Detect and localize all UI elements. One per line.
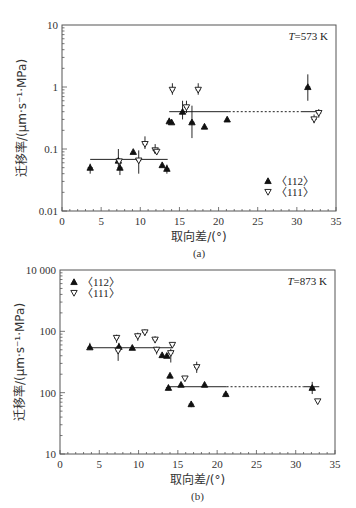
y-axis-title: 迁移率/(μm·s⁻¹·MPa) [12,303,27,421]
x-tick-label: 35 [331,215,343,227]
chart-panel-a: 051015202530350.010.1110取向差/(°)迁移率/(μm·s… [14,19,342,260]
filled-up-triangle-marker [159,162,165,168]
y-tick-label: 1 [53,81,59,93]
filled-up-triangle-marker [130,149,136,155]
open-down-triangle-icon [265,189,271,195]
y-tick-label: 100 [40,325,57,337]
x-axis-title: 取向差/(°) [171,229,226,244]
x-tick-label: 0 [59,215,65,227]
filled-up-triangle-icon [265,178,271,184]
open-down-triangle-marker [182,376,188,382]
x-tick-label: 25 [252,215,264,227]
legend-label: 〈111〉 [276,186,314,198]
y-tick-label: 10 [47,19,59,31]
filled-up-triangle-marker [201,381,207,387]
x-tick-label: 10 [133,458,145,470]
series-111 [116,83,322,173]
y-tick-label: 10 [45,448,57,460]
y-axis-title: 迁移率/(μm·s⁻¹·MPa) [14,59,29,177]
x-tick-label: 25 [251,458,263,470]
x-tick-label: 35 [330,458,342,470]
y-tick-label: 0.01 [39,205,58,217]
chart-panel-b: 051015202530351010010010 000取向差/(°)迁移率/(… [12,264,341,503]
legend-item: 〈111〉 [265,186,314,198]
open-down-triangle-icon [71,290,77,296]
open-down-triangle-marker [315,399,321,405]
y-tick-label: 0.1 [44,143,58,155]
filled-up-triangle-icon [71,279,77,285]
x-axis-title: 取向差/(°) [170,472,225,487]
y-tick-label: 10 000 [26,264,57,276]
x-tick-label: 5 [97,458,103,470]
x-tick-label: 0 [57,458,63,470]
temperature-annotation: T=873 K [287,275,327,287]
filled-up-triangle-marker [167,372,173,378]
panel-caption: (b) [191,490,204,503]
y-tick-label: 100 [40,387,57,399]
panel-caption: (a) [193,247,206,260]
x-tick-label: 15 [174,215,186,227]
figure: 051015202530350.010.1110取向差/(°)迁移率/(μm·s… [0,0,356,508]
x-tick-label: 10 [135,215,147,227]
legend-label: 〈111〉 [82,287,120,299]
filled-up-triangle-marker [224,116,230,122]
filled-up-triangle-marker [178,381,184,387]
x-tick-label: 20 [213,215,225,227]
series-112 [87,343,316,407]
x-tick-label: 30 [291,215,303,227]
x-tick-label: 15 [172,458,184,470]
x-tick-label: 30 [290,458,302,470]
x-tick-label: 5 [98,215,104,227]
x-tick-label: 20 [212,458,224,470]
series-111 [113,329,321,404]
temperature-annotation: T=573 K [288,30,328,42]
legend-item: 〈111〉 [71,287,120,299]
filled-up-triangle-marker [201,123,207,129]
